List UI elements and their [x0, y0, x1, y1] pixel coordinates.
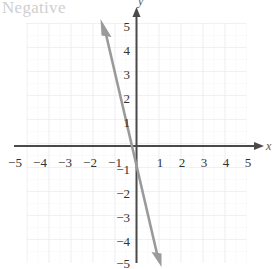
y-tick-label: −2 [106, 186, 130, 202]
graph-figure: Negative [0, 0, 275, 269]
y-tick-label: 5 [112, 19, 130, 35]
x-tick-label: 5 [245, 155, 252, 171]
x-axis-label: x [266, 139, 271, 154]
y-tick-label: −4 [106, 234, 130, 250]
x-tick-label: 4 [223, 155, 230, 171]
x-tick-label: 2 [179, 155, 186, 171]
x-tick-label: −4 [33, 155, 47, 171]
y-axis-label: y [138, 0, 143, 9]
y-tick-label: 1 [112, 115, 130, 131]
x-tick-label: 1 [157, 155, 164, 171]
y-tick-label: 4 [112, 43, 130, 59]
y-tick-label: −5 [106, 256, 130, 269]
x-tick-label: −2 [83, 155, 97, 171]
y-tick-label: −1 [106, 162, 130, 178]
coordinate-plane [0, 0, 275, 269]
y-tick-label: −3 [106, 210, 130, 226]
y-tick-label: 3 [112, 67, 130, 83]
x-tick-label: −3 [58, 155, 72, 171]
x-tick-label: 3 [201, 155, 208, 171]
y-tick-label: 2 [112, 91, 130, 107]
x-tick-label: −5 [8, 155, 22, 171]
